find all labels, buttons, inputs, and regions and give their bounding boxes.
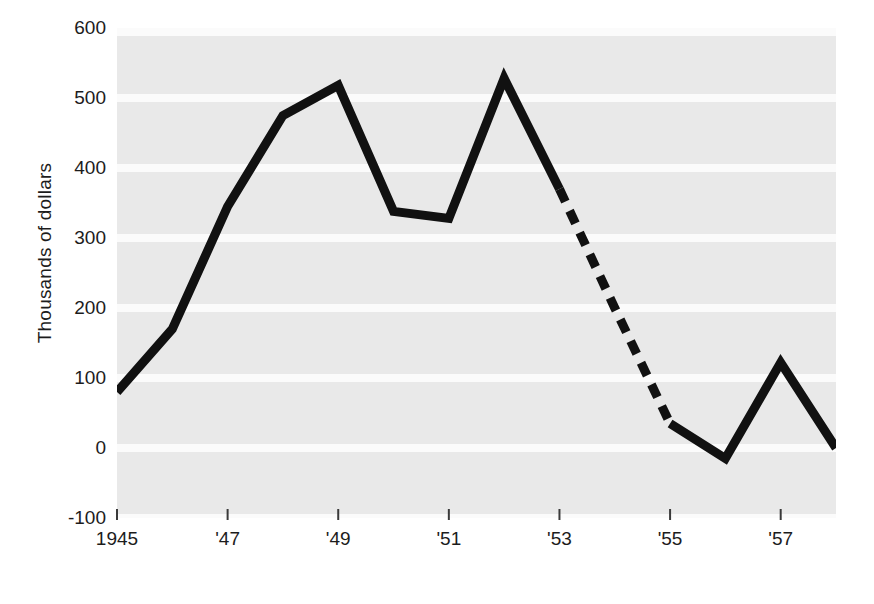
x-tick-label-49: '49 bbox=[326, 528, 351, 550]
x-tick-label-1945: 1945 bbox=[96, 528, 138, 550]
x-tick-label-47: '47 bbox=[215, 528, 240, 550]
x-tick-label-53: '53 bbox=[547, 528, 572, 550]
x-axis-ticks bbox=[0, 0, 874, 604]
x-tick-label-57: '57 bbox=[768, 528, 793, 550]
chart-figure: Thousands of dollars 6005004003002001000… bbox=[0, 0, 874, 604]
x-tick-label-51: '51 bbox=[436, 528, 461, 550]
x-tick-label-55: '55 bbox=[658, 528, 683, 550]
